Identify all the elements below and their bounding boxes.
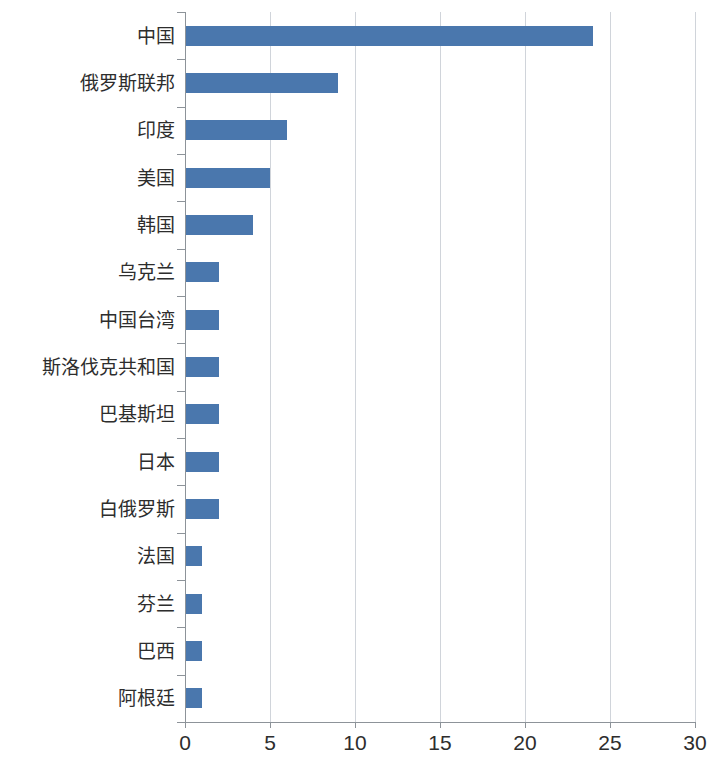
category-label: 中国 — [0, 26, 175, 46]
y-axis-tick — [177, 296, 185, 297]
gridline-10 — [355, 12, 356, 722]
category-label: 日本 — [0, 452, 175, 472]
y-axis-tick — [177, 154, 185, 155]
bar — [185, 262, 219, 282]
category-label: 印度 — [0, 120, 175, 140]
x-axis-tick — [695, 722, 696, 728]
x-axis-tick-label: 25 — [580, 731, 640, 755]
category-label: 中国台湾 — [0, 310, 175, 330]
bar — [185, 688, 202, 708]
y-axis-tick — [177, 12, 185, 13]
category-label: 斯洛伐克共和国 — [0, 357, 175, 377]
x-axis-tick-label: 0 — [155, 731, 215, 755]
bar — [185, 452, 219, 472]
category-label: 美国 — [0, 168, 175, 188]
y-axis-tick — [177, 343, 185, 344]
x-axis-tick — [270, 722, 271, 728]
y-axis-tick — [177, 201, 185, 202]
bar — [185, 168, 270, 188]
bar-chart: 中国俄罗斯联邦印度美国韩国乌克兰中国台湾斯洛伐克共和国巴基斯坦日本白俄罗斯法国芬… — [0, 0, 713, 769]
bar — [185, 215, 253, 235]
gridline-30 — [695, 12, 696, 722]
category-label: 法国 — [0, 546, 175, 566]
bar — [185, 73, 338, 93]
category-label: 乌克兰 — [0, 262, 175, 282]
x-axis-tick — [355, 722, 356, 728]
bar — [185, 26, 593, 46]
x-axis-tick-label: 30 — [665, 731, 713, 755]
category-label: 阿根廷 — [0, 688, 175, 708]
bar — [185, 357, 219, 377]
y-axis-tick — [177, 485, 185, 486]
bar — [185, 310, 219, 330]
gridline-15 — [440, 12, 441, 722]
y-axis-tick — [177, 627, 185, 628]
y-axis-tick — [177, 391, 185, 392]
bar — [185, 499, 219, 519]
bar — [185, 594, 202, 614]
plot-area — [185, 12, 695, 722]
y-axis-tick — [177, 438, 185, 439]
category-label: 韩国 — [0, 215, 175, 235]
gridline-20 — [525, 12, 526, 722]
bar — [185, 546, 202, 566]
category-label: 芬兰 — [0, 594, 175, 614]
category-label: 巴西 — [0, 641, 175, 661]
bar — [185, 641, 202, 661]
y-axis-tick — [177, 249, 185, 250]
y-axis-line — [185, 12, 186, 723]
gridline-5 — [270, 12, 271, 722]
y-axis-tick — [177, 722, 185, 723]
gridline-25 — [610, 12, 611, 722]
x-axis-tick — [525, 722, 526, 728]
x-axis-tick-label: 10 — [325, 731, 385, 755]
category-label: 俄罗斯联邦 — [0, 73, 175, 93]
bar — [185, 120, 287, 140]
y-axis-tick — [177, 580, 185, 581]
x-axis-tick — [610, 722, 611, 728]
y-axis-tick — [177, 675, 185, 676]
x-axis-tick — [440, 722, 441, 728]
bar — [185, 404, 219, 424]
x-axis-tick — [185, 722, 186, 728]
y-axis-tick — [177, 107, 185, 108]
x-axis-tick-label: 5 — [240, 731, 300, 755]
y-axis-tick — [177, 533, 185, 534]
x-axis-tick-label: 20 — [495, 731, 555, 755]
category-label: 白俄罗斯 — [0, 499, 175, 519]
category-label: 巴基斯坦 — [0, 404, 175, 424]
y-axis-tick — [177, 59, 185, 60]
x-axis-tick-label: 15 — [410, 731, 470, 755]
